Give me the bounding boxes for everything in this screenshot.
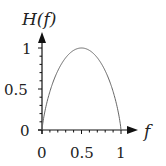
- y-axis-label: H(f): [21, 9, 56, 29]
- y-tick-label-0: 0: [20, 122, 30, 140]
- y-tick-label-0.5: 0.5: [4, 81, 28, 99]
- entropy-chart: H(f) f 1 0.5 0 0 0.5 1: [0, 0, 166, 166]
- y-axis-arrow-icon: [38, 32, 46, 43]
- x-tick-label-0: 0: [37, 144, 47, 162]
- x-axis-arrow-icon: [127, 126, 138, 134]
- y-tick-label-1: 1: [22, 40, 32, 58]
- entropy-curve: [42, 48, 121, 130]
- x-tick-label-0.5: 0.5: [70, 144, 94, 162]
- x-tick-label-1: 1: [116, 144, 126, 162]
- x-axis-label: f: [142, 121, 153, 141]
